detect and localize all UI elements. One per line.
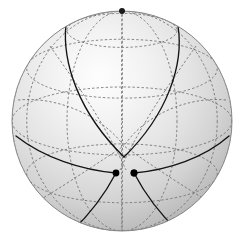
vertex-apex <box>113 170 120 177</box>
vertex-lower-right <box>131 170 138 177</box>
north-pole-marker <box>119 8 125 14</box>
sphere-canvas <box>0 0 244 250</box>
sphere-figure <box>0 0 244 250</box>
